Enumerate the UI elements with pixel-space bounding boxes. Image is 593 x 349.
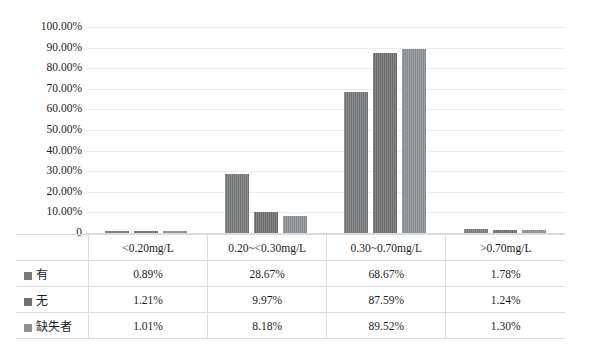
y-axis-tick-label: 80.00% (10, 62, 82, 74)
bar[interactable] (283, 216, 307, 233)
table-cell-value: 8.18% (208, 313, 327, 339)
data-table-body: <0.20mg/L0.20~<0.30mg/L0.30~0.70mg/L>0.7… (16, 235, 565, 339)
bar[interactable] (522, 230, 546, 233)
table-header-row: <0.20mg/L0.20~<0.30mg/L0.30~0.70mg/L>0.7… (16, 235, 565, 261)
bar-group (326, 27, 446, 233)
table-row: 缺失者1.01%8.18%89.52%1.30% (16, 313, 565, 339)
y-axis: 100.00%90.00%80.00%70.00%60.00%50.00%40.… (6, 27, 82, 233)
bar[interactable] (373, 53, 397, 233)
table-cell-value: 89.52% (327, 313, 446, 339)
y-axis-tick-label: 70.00% (10, 83, 82, 95)
bar[interactable] (402, 49, 426, 233)
bar[interactable] (134, 231, 158, 233)
bar-group (206, 27, 326, 233)
column-header: 0.30~0.70mg/L (327, 235, 446, 261)
legend-label: 缺失者 (36, 320, 72, 334)
bar[interactable] (225, 174, 249, 233)
table-cell-value: 1.24% (446, 287, 565, 313)
y-axis-tick-label: 10.00% (10, 206, 82, 218)
legend-swatch-icon (24, 298, 32, 306)
table-cell-value: 68.67% (327, 261, 446, 287)
y-axis-tick-label: 20.00% (10, 186, 82, 198)
chart-page: 100.00%90.00%80.00%70.00%60.00%50.00%40.… (0, 0, 593, 349)
legend-label: 有 (36, 268, 48, 282)
bar[interactable] (464, 229, 488, 233)
y-axis-tick-label: 50.00% (10, 124, 82, 136)
bar-group (86, 27, 206, 233)
y-axis-tick-label: 90.00% (10, 42, 82, 54)
table-cell-value: 87.59% (327, 287, 446, 313)
legend-cell[interactable]: 无 (16, 287, 89, 313)
column-header: >0.70mg/L (446, 235, 565, 261)
table-cell-value: 1.78% (446, 261, 565, 287)
y-axis-tick-label: 40.00% (10, 145, 82, 157)
y-axis-tick-label: 30.00% (10, 165, 82, 177)
legend-cell[interactable]: 有 (16, 261, 89, 287)
table-cell-value: 1.30% (446, 313, 565, 339)
bars-layer (86, 27, 565, 233)
y-axis-tick-label: 100.00% (10, 21, 82, 33)
bar[interactable] (493, 230, 517, 233)
bar[interactable] (344, 92, 368, 233)
legend-cell[interactable]: 缺失者 (16, 313, 89, 339)
bar[interactable] (105, 231, 129, 233)
data-table: <0.20mg/L0.20~<0.30mg/L0.30~0.70mg/L>0.7… (16, 234, 565, 339)
table-cell-value: 1.01% (89, 313, 208, 339)
bar[interactable] (254, 212, 278, 233)
column-header: 0.20~<0.30mg/L (208, 235, 327, 261)
table-cell-value: 0.89% (89, 261, 208, 287)
table-corner-cell (16, 235, 89, 261)
table-cell-value: 1.21% (89, 287, 208, 313)
column-header: <0.20mg/L (89, 235, 208, 261)
y-axis-tick-label: 60.00% (10, 103, 82, 115)
table-row: 有0.89%28.67%68.67%1.78% (16, 261, 565, 287)
table-cell-value: 28.67% (208, 261, 327, 287)
bar[interactable] (163, 231, 187, 233)
table-cell-value: 9.97% (208, 287, 327, 313)
table-row: 无1.21%9.97%87.59%1.24% (16, 287, 565, 313)
legend-swatch-icon (24, 324, 32, 332)
legend-label: 无 (36, 294, 48, 308)
legend-swatch-icon (24, 272, 32, 280)
bar-group (445, 27, 565, 233)
